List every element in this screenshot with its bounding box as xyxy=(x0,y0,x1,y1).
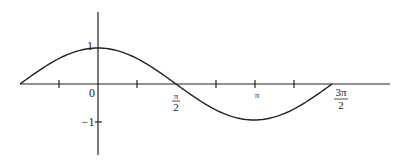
cosine-graph: 1 0 −1 π 2 π 3π 2 xyxy=(0,0,410,163)
x-label-pi: π xyxy=(255,90,260,100)
x-label-three-half-pi-num: 3π xyxy=(335,86,347,98)
y-label-one: 1 xyxy=(87,39,93,53)
x-label-three-half-pi-den: 2 xyxy=(338,99,344,111)
origin-label: 0 xyxy=(89,86,95,100)
y-label-neg-one: −1 xyxy=(82,115,95,129)
x-label-half-pi-den: 2 xyxy=(173,101,179,113)
x-label-half-pi-num: π xyxy=(174,91,179,101)
